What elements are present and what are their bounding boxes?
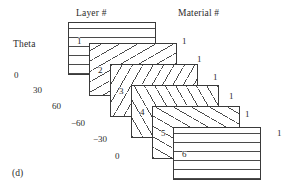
theta-value-1: 0: [14, 70, 19, 80]
theta-label: Theta: [13, 39, 36, 49]
theta-value-6: 0: [115, 151, 120, 161]
material-value-6: 1: [277, 128, 282, 138]
layer-number-6: 6: [182, 150, 187, 159]
layer-number-3: 3: [119, 87, 124, 96]
material-value-1: 1: [182, 36, 187, 46]
theta-value-5: −30: [93, 134, 107, 144]
material-value-5: 1: [245, 109, 250, 119]
layer-number-5: 5: [161, 129, 166, 138]
laminate-stack-diagram: Layer # Material # Theta 03060−60−300 12…: [0, 0, 297, 196]
theta-value-2: 30: [33, 85, 42, 95]
material-column-header: Material #: [178, 8, 219, 18]
material-value-4: 1: [229, 91, 234, 101]
theta-value-4: −60: [71, 118, 85, 128]
layer-number-2: 2: [98, 66, 103, 75]
figure-caption: (d): [12, 168, 23, 178]
layer-column-header: Layer #: [76, 8, 107, 18]
layer-plate-6: 6: [173, 127, 261, 180]
material-value-2: 1: [197, 54, 202, 64]
layer-number-1: 1: [77, 37, 82, 46]
theta-value-3: 60: [52, 101, 61, 111]
material-value-3: 1: [213, 72, 218, 82]
layer-number-4: 4: [140, 108, 145, 117]
